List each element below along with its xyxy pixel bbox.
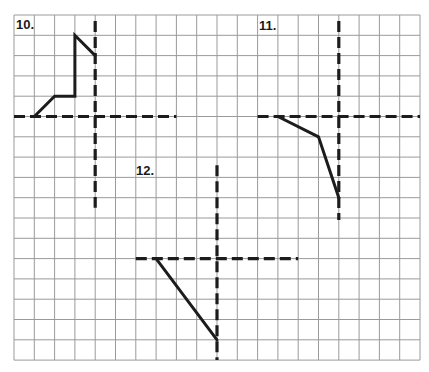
grid-paper [0, 0, 429, 372]
grid-diagram: 10. 11. 12. [0, 0, 429, 372]
figure-11-label: 11. [259, 19, 276, 32]
figure-10-label: 10. [16, 18, 34, 31]
figure-12-label: 12. [136, 164, 154, 177]
